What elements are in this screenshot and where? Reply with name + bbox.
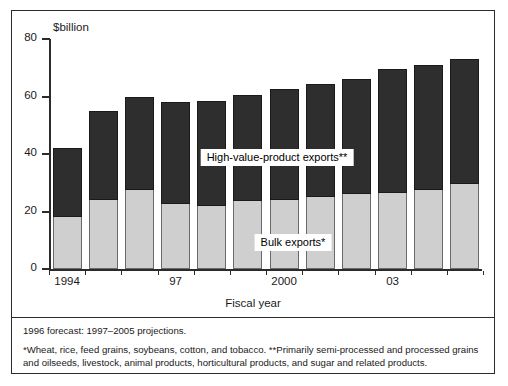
x-axis-tick	[447, 271, 448, 275]
bar-segment-bulk	[125, 190, 154, 269]
bar-2002	[342, 79, 371, 269]
bar-1997	[161, 102, 190, 269]
bar-segment-high-value-product	[342, 79, 371, 194]
y-axis-tick-label: 20	[24, 203, 37, 217]
x-axis-tick	[230, 271, 231, 275]
x-axis-tick	[49, 271, 50, 275]
bar-segment-bulk	[378, 193, 407, 269]
x-axis-tick	[121, 271, 122, 275]
x-axis-tick	[85, 271, 86, 275]
bar-2004	[414, 65, 443, 269]
y-axis-tick-label: 0	[31, 260, 37, 274]
bar-2005	[450, 59, 479, 269]
y-axis-tick-label: 60	[24, 88, 37, 102]
x-axis-tick-label-2000: 2000	[271, 274, 297, 288]
bar-segment-high-value-product	[378, 69, 407, 193]
bar-segment-high-value-product	[414, 65, 443, 190]
x-axis-title: Fiscal year	[12, 296, 494, 310]
x-axis-tick	[483, 271, 484, 275]
footnote-divider	[12, 317, 494, 318]
bar-segment-bulk	[53, 217, 82, 269]
x-axis-tick	[158, 271, 159, 275]
x-axis-tick	[194, 271, 195, 275]
x-axis-tick-label-03: 03	[386, 274, 399, 288]
bar-segment-bulk	[89, 200, 118, 269]
y-axis-units-label: $billion	[53, 20, 89, 34]
bar-segment-bulk	[450, 184, 479, 269]
footnote-sources: *Wheat, rice, feed grains, soybeans, cot…	[23, 343, 484, 369]
x-axis-tick-label-1994: 1994	[54, 274, 80, 288]
x-axis-tick	[375, 271, 376, 275]
chart-figure: $billion 020406080 199497200003 Fiscal y…	[11, 10, 495, 374]
footnotes: 1996 forecast: 1997–2005 projections. *W…	[23, 324, 484, 369]
bar-1994	[53, 148, 82, 269]
y-axis-tick-label: 40	[24, 145, 37, 159]
y-axis-tick-label: 80	[24, 30, 37, 44]
bar-1995	[89, 111, 118, 269]
bar-segment-high-value-product	[306, 84, 335, 198]
bar-segment-high-value-product	[89, 111, 118, 200]
x-axis-tick	[266, 271, 267, 275]
bar-segment-bulk	[414, 190, 443, 269]
x-axis-tick	[338, 271, 339, 275]
footnote-forecast: 1996 forecast: 1997–2005 projections.	[23, 324, 484, 337]
x-axis-tick-label-97: 97	[169, 274, 182, 288]
bar-segment-high-value-product	[161, 102, 190, 204]
bar-2003	[378, 69, 407, 269]
bar-segment-bulk	[161, 204, 190, 269]
legend-label-bulk: Bulk exports*	[255, 234, 332, 251]
bar-segment-bulk	[342, 194, 371, 269]
bar-1996	[125, 97, 154, 270]
x-axis-tick	[411, 271, 412, 275]
bar-segment-high-value-product	[53, 148, 82, 217]
x-axis-tick	[302, 271, 303, 275]
bar-segment-bulk	[197, 206, 226, 269]
bar-1998	[197, 101, 226, 269]
bar-segment-high-value-product	[450, 59, 479, 184]
legend-label-high-value-product: High-value-product exports**	[201, 149, 354, 166]
bar-segment-high-value-product	[125, 97, 154, 190]
bar-segment-high-value-product	[270, 89, 299, 200]
